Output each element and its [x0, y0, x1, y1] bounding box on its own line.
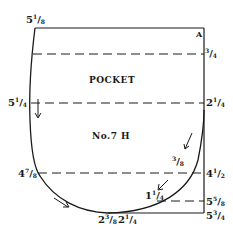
measure-curve-2: 11/4	[145, 190, 164, 201]
pattern-number: No.7 H	[92, 131, 130, 141]
corner-label-a: A	[196, 30, 202, 38]
measure-right-2: 21/4	[206, 97, 225, 108]
measure-right-4: 55/8	[206, 196, 225, 207]
measure-right-1: 3/4	[205, 48, 217, 59]
measure-right-3: 41/2	[206, 168, 225, 179]
arrow-diagonal-icon-2	[158, 180, 168, 190]
measure-bottom-1: 23/8	[98, 214, 117, 225]
measure-right-5: 53/4	[206, 210, 225, 221]
arrow-down-icon	[35, 99, 41, 118]
measure-left-2: 47/8	[18, 168, 37, 179]
arrow-diagonal-icon-1	[184, 133, 192, 149]
measure-curve-1: 3/8	[172, 156, 184, 167]
pattern-title: POCKET	[89, 75, 135, 85]
measure-left-1: 51/4	[8, 97, 27, 108]
measure-bottom-2: 21/4	[118, 214, 137, 225]
pocket-curve-left	[30, 28, 108, 213]
measure-top-left: 51/8	[26, 14, 45, 25]
arrow-right-icon	[54, 198, 69, 207]
